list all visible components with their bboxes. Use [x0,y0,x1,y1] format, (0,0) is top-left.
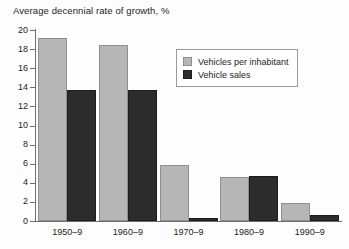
x-axis-tick-label: 1990–9 [280,227,340,237]
x-axis-tick-label: 1960–9 [98,227,158,237]
y-axis-tick [30,49,36,50]
y-axis-tick-label: 10 [2,121,28,130]
y-axis-tick [30,126,36,127]
bar [189,218,218,221]
bar [128,90,157,221]
y-axis-tick [30,145,36,146]
chart-title: Average decennial rate of growth, % [13,5,169,16]
y-axis-tick [30,87,36,88]
y-axis-tick-label: 8 [2,140,28,149]
y-axis-tick-label: 6 [2,159,28,168]
y-axis-tick-label: 12 [2,102,28,111]
legend-item[interactable]: Vehicles per inhabitant [183,55,289,68]
legend-item-label: Vehicles per inhabitant [198,57,289,67]
y-axis-tick-label: 0 [2,217,28,226]
bar-chart-figure: Average decennial rate of growth, % 2018… [0,0,349,249]
bar [249,176,278,221]
bar [310,215,339,221]
y-axis-tick [30,221,36,222]
y-axis-labels: 20181614121086420 [0,0,28,249]
y-axis-tick [30,106,36,107]
y-axis-tick [30,68,36,69]
bar [281,203,310,221]
y-axis-tick-label: 14 [2,83,28,92]
x-axis-tick-label: 1980–9 [219,227,279,237]
bar [220,177,249,221]
chart-legend: Vehicles per inhabitantVehicle sales [176,49,298,87]
y-axis-tick-label: 18 [2,45,28,54]
legend-swatch-icon [183,57,192,66]
legend-item-label: Vehicle sales [198,70,251,80]
x-axis-tick-label: 1950–9 [37,227,97,237]
y-axis-tick-label: 2 [2,197,28,206]
bar [67,90,96,221]
y-axis-tick [30,183,36,184]
bar [160,165,189,221]
y-axis-tick-label: 16 [2,64,28,73]
bar [38,38,67,221]
y-axis-tick-label: 4 [2,178,28,187]
x-axis-tick-label: 1970–9 [159,227,219,237]
x-axis-line [30,221,342,222]
bar [99,45,128,221]
y-axis-tick [30,30,36,31]
y-axis-tick-label: 20 [2,26,28,35]
y-axis-tick [30,164,36,165]
legend-item[interactable]: Vehicle sales [183,68,289,81]
legend-swatch-icon [183,70,192,79]
y-axis-tick [30,202,36,203]
